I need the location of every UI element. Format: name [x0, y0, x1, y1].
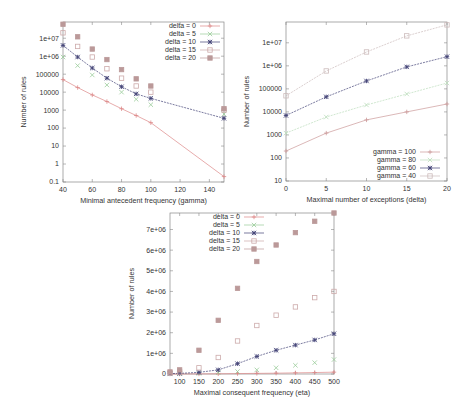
cross-marker — [105, 83, 109, 87]
y-tick-label: 10000 — [263, 108, 283, 115]
figure: 0.11101001000100001000001e+061e+07406080… — [0, 0, 473, 413]
filled-square-marker — [61, 22, 65, 26]
plot-frame — [286, 22, 447, 181]
legend-label: gamma = 100 — [373, 148, 416, 156]
y-axis-label: Number of rules — [19, 76, 28, 128]
y-tick-label: 10 — [51, 142, 59, 149]
star-marker — [119, 85, 123, 89]
legend-label: delta = 15 — [209, 237, 240, 244]
series-4 — [168, 289, 336, 375]
square-marker — [216, 355, 220, 359]
y-tick-label: 1e+06 — [146, 350, 166, 357]
y-tick-label: 1000 — [43, 107, 59, 114]
cross-marker — [313, 360, 317, 364]
legend-label: delta = 10 — [165, 38, 196, 45]
filled-square-marker — [168, 370, 172, 374]
series-3 — [61, 43, 226, 120]
x-axis-label: Minimal antecedent frequency (gamma) — [80, 196, 207, 205]
cross-marker — [293, 363, 297, 367]
x-tick-label: 200 — [212, 378, 224, 385]
filled-square-marker — [293, 230, 297, 234]
y-tick-label: 7e+06 — [146, 226, 166, 233]
x-tick-label: 0 — [284, 185, 288, 192]
square-marker — [313, 295, 317, 299]
y-tick-label: 1e+06 — [262, 62, 282, 69]
star-marker — [364, 79, 368, 83]
plus-marker — [75, 85, 79, 89]
legend: delta = 0delta = 5delta = 10delta = 15de… — [209, 213, 264, 252]
x-tick-label: 20 — [443, 185, 451, 192]
star-marker — [405, 65, 409, 69]
star-marker — [90, 66, 94, 70]
y-axis-label: Number of rules — [127, 268, 136, 320]
cross-marker — [119, 90, 123, 94]
filled-square-marker — [177, 368, 181, 372]
star-marker — [324, 95, 328, 99]
y-tick-label: 100 — [47, 124, 59, 131]
series-3 — [168, 332, 336, 376]
square-marker — [293, 305, 297, 309]
star-marker — [293, 343, 297, 347]
x-tick-label: 40 — [59, 186, 67, 193]
plot-frame — [170, 213, 334, 374]
plus-marker — [364, 118, 368, 122]
x-tick-label: 100 — [145, 186, 157, 193]
filled-square-marker — [208, 56, 212, 60]
legend-label: delta = 0 — [169, 22, 196, 29]
square-marker — [90, 55, 94, 59]
plot-frame — [63, 22, 224, 182]
cross-marker — [149, 103, 153, 107]
cross-marker — [364, 103, 368, 107]
star-marker — [274, 348, 278, 352]
legend-label: gamma = 80 — [377, 156, 416, 164]
series-line — [63, 80, 224, 177]
legend-label: delta = 15 — [165, 46, 196, 53]
star-marker — [252, 231, 256, 235]
square-marker — [255, 323, 259, 327]
filled-square-marker — [222, 106, 226, 110]
y-tick-label: 100000 — [36, 71, 59, 78]
square-marker — [149, 90, 153, 94]
star-marker — [222, 116, 226, 120]
filled-square-marker — [252, 247, 256, 251]
x-tick-label: 15 — [403, 185, 411, 192]
series-5 — [61, 22, 226, 111]
star-marker — [428, 166, 432, 170]
y-tick-label: 1000 — [266, 131, 282, 138]
filled-square-marker — [75, 35, 79, 39]
y-tick-label: 3e+06 — [146, 308, 166, 315]
plus-marker — [61, 77, 65, 81]
plus-marker — [119, 106, 123, 110]
plus-marker — [134, 113, 138, 117]
legend-label: delta = 5 — [213, 221, 240, 228]
x-tick-label: 450 — [309, 378, 321, 385]
y-tick-label: 100 — [270, 154, 282, 161]
filled-square-marker — [119, 67, 123, 71]
cross-marker — [75, 63, 79, 67]
y-tick-label: 0 — [162, 370, 166, 377]
series-line — [286, 104, 447, 151]
plus-marker — [293, 371, 297, 375]
chart-2: 101001000100001000001e+061e+0705101520Ma… — [242, 22, 451, 204]
x-tick-label: 120 — [174, 186, 186, 193]
star-marker — [284, 113, 288, 117]
legend: delta = 0delta = 5delta = 10delta = 15de… — [165, 22, 220, 61]
x-axis-label: Maximal number of exceptions (delta) — [307, 195, 427, 204]
square-marker — [235, 339, 239, 343]
cross-marker — [405, 92, 409, 96]
x-tick-label: 10 — [363, 185, 371, 192]
star-marker — [332, 332, 336, 336]
star-marker — [208, 40, 212, 44]
filled-square-marker — [149, 84, 153, 88]
series-4 — [61, 31, 226, 113]
series-line — [286, 83, 447, 133]
series-1 — [61, 77, 226, 178]
chart-1: 0.11101001000100001000001e+061e+07406080… — [19, 22, 226, 205]
cross-marker — [134, 97, 138, 101]
series-2 — [61, 55, 226, 116]
y-tick-label: 5e+06 — [146, 267, 166, 274]
x-tick-label: 400 — [290, 378, 302, 385]
y-tick-label: 1e+07 — [39, 35, 59, 42]
star-marker — [313, 338, 317, 342]
filled-square-marker — [274, 243, 278, 247]
